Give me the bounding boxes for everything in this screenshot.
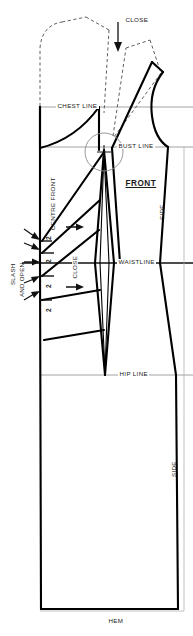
left-slash-curve	[40, 107, 99, 148]
slash-arrow-2	[24, 243, 40, 250]
close-arrow-top	[114, 22, 122, 52]
side-seam-lower	[160, 263, 176, 375]
label-bust-line: BUST LINE	[117, 143, 155, 149]
label-close-waist: CLOSE	[72, 254, 78, 280]
slash-arrow-1	[24, 229, 40, 240]
increment-value-2: 2	[46, 259, 53, 263]
original-bodice-dashed	[40, 17, 161, 137]
slash-arrow-3	[24, 259, 40, 266]
label-slash: SLASH	[10, 264, 16, 285]
label-side-upper: SIDE	[159, 204, 165, 220]
label-side-lower: SIDE	[171, 461, 177, 477]
slash-and-open-arrows	[24, 229, 40, 300]
pattern-drawing	[0, 0, 193, 636]
increment-value-3: 2	[46, 284, 53, 288]
side-seam-hip-hem	[176, 375, 178, 609]
open-arrow-2	[66, 284, 84, 291]
label-waistline: WAISTLINE	[117, 259, 156, 265]
label-hem: HEM	[107, 618, 125, 624]
increment-value-1: 2	[46, 236, 53, 240]
label-chest-line: CHEST LINE	[56, 103, 99, 109]
label-hip-line: HIP LINE	[118, 371, 149, 377]
label-and-open: AND OPEN	[19, 263, 25, 297]
slash-arrow-5	[24, 291, 40, 300]
pattern-outline	[40, 62, 178, 609]
centre-front-edge-lower	[40, 263, 41, 609]
slash-line-4	[42, 290, 100, 300]
increment-value-4: 2	[46, 308, 53, 312]
label-centre-front: CENTRE FRONT	[50, 177, 56, 230]
slash-line-5	[44, 330, 104, 340]
label-close-top: CLOSE	[124, 17, 150, 23]
pattern-diagram-page: CLOSE CHEST LINE BUST LINE FRONT CENTRE …	[0, 0, 193, 636]
slash-arrow-4	[24, 276, 40, 283]
page-title: FRONT	[124, 180, 158, 188]
